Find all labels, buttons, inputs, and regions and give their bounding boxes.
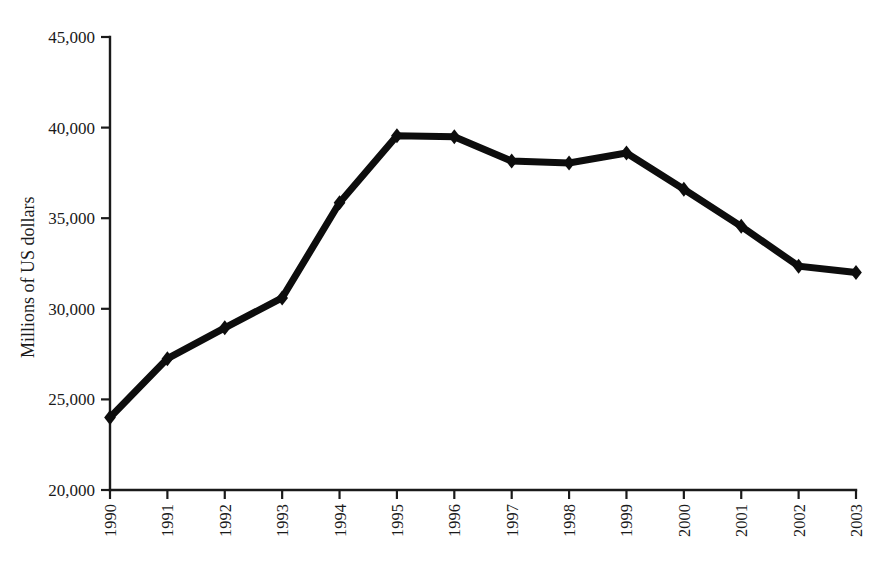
y-tick-label-45000: 45,000 <box>48 28 95 47</box>
chart-container: Millions of US dollars 45,000 40,000 35,… <box>0 0 881 569</box>
x-tick-label-2002: 2002 <box>790 504 809 537</box>
y-axis-title: Millions of US dollars <box>18 196 38 358</box>
x-tick-label-1997: 1997 <box>503 504 522 537</box>
x-tick-label-2003: 2003 <box>847 504 866 537</box>
y-tick-label-35000: 35,000 <box>48 209 95 228</box>
x-tick-label-2001: 2001 <box>732 504 751 537</box>
x-tick-label-1992: 1992 <box>216 504 235 537</box>
x-tick-label-1996: 1996 <box>445 504 464 537</box>
y-tick-label-40000: 40,000 <box>48 119 95 138</box>
y-axis-title-text: Millions of US dollars <box>18 196 38 358</box>
x-tick-label-1993: 1993 <box>273 504 292 537</box>
y-tick-label-30000: 30,000 <box>48 300 95 319</box>
chart-background <box>0 0 881 569</box>
line-chart: Millions of US dollars 45,000 40,000 35,… <box>0 0 881 569</box>
y-tick-label-25000: 25,000 <box>48 390 95 409</box>
x-tick-label-2000: 2000 <box>675 504 694 537</box>
x-tick-label-1999: 1999 <box>617 504 636 537</box>
y-tick-label-20000: 20,000 <box>48 481 95 500</box>
x-tick-label-1998: 1998 <box>560 504 579 537</box>
x-tick-label-1995: 1995 <box>388 504 407 537</box>
x-tick-label-1990: 1990 <box>101 504 120 537</box>
x-tick-label-1994: 1994 <box>331 504 350 537</box>
x-tick-label-1991: 1991 <box>158 504 177 537</box>
